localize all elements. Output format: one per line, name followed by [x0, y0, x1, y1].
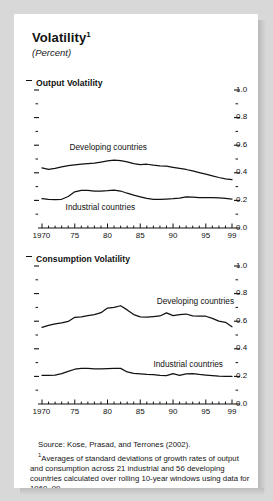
chart-panel-output-volatility: Output Volatility 1.00.80.60.40.20.01970… [14, 78, 258, 253]
plot-output-volatility: 1.00.80.60.40.20.01970758085909599Develo… [14, 78, 258, 253]
x-axis-tick-label: 99 [228, 407, 237, 416]
y-axis-tick-label: 0.4 [236, 167, 247, 176]
series-annotation-developing: Developing countries [70, 142, 147, 152]
page-shadow-bottom [20, 488, 264, 495]
x-axis-tick-label: 75 [70, 407, 79, 416]
x-axis-tick-label: 90 [169, 407, 178, 416]
x-axis-tick-label: 80 [103, 231, 112, 240]
y-axis-tick-label: 0.2 [236, 371, 247, 380]
x-axis-tick-label: 75 [70, 231, 79, 240]
x-axis-tick-label: 99 [228, 231, 237, 240]
x-axis-tick-label: 90 [169, 231, 178, 240]
x-axis-tick-label: 85 [136, 407, 145, 416]
chart-panel-consumption-volatility: Consumption Volatility 1.00.80.60.40.20.… [14, 254, 258, 429]
y-axis-tick-label: 0.2 [236, 195, 247, 204]
series-annotation-industrial: Industrial countries [153, 359, 223, 369]
figure-title-text: Volatility [32, 30, 86, 45]
x-axis-tick-label: 85 [136, 231, 145, 240]
series-annotation-developing: Developing countries [157, 296, 234, 306]
x-axis-tick-label: 95 [201, 231, 210, 240]
y-axis-tick-label: 1.0 [236, 85, 247, 94]
plot-consumption-volatility: 1.00.80.60.40.20.01970758085909599Develo… [14, 254, 258, 429]
figure-page: Volatility1 (Percent) Output Volatility … [14, 14, 258, 488]
source-note: Source: Kose, Prasad, and Terrones (2002… [30, 440, 254, 450]
chart-svg [14, 78, 258, 253]
y-axis-tick-label: 0.4 [236, 343, 247, 352]
figure-notes: Source: Kose, Prasad, and Terrones (2002… [30, 440, 254, 495]
y-axis-tick-label: 1.0 [236, 261, 247, 270]
y-axis-tick-label: 0.0 [236, 399, 247, 408]
y-axis-tick-label: 0.6 [236, 140, 247, 149]
x-axis-tick-label: 80 [103, 407, 112, 416]
y-axis-tick-label: 0.0 [236, 223, 247, 232]
figure-subtitle: (Percent) [32, 47, 71, 58]
series-line-developing [42, 306, 232, 328]
x-axis-tick-label: 1970 [33, 231, 51, 240]
figure-title-superscript: 1 [86, 30, 91, 39]
series-line-developing [42, 160, 232, 180]
y-axis-tick-label: 0.6 [236, 316, 247, 325]
x-axis-tick-label: 1970 [33, 407, 51, 416]
y-axis-tick-label: 0.8 [236, 112, 247, 121]
series-line-industrial [42, 368, 232, 376]
x-axis-tick-label: 95 [201, 407, 210, 416]
chart-svg [14, 254, 258, 429]
figure-title: Volatility1 [32, 30, 91, 45]
page-shadow-right [258, 20, 266, 492]
y-axis-tick-label: 0.8 [236, 288, 247, 297]
series-line-industrial [42, 190, 232, 199]
series-annotation-industrial: Industrial countries [66, 202, 136, 212]
